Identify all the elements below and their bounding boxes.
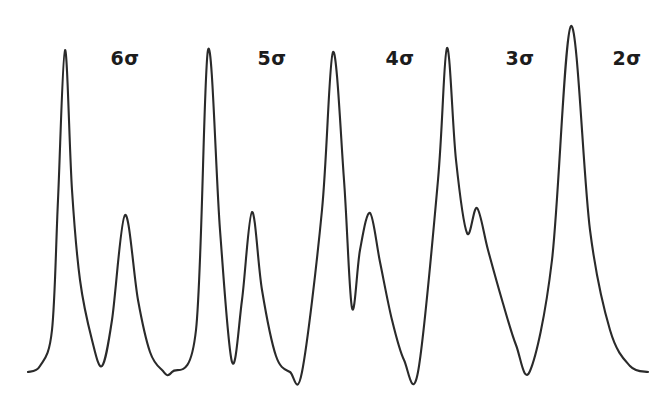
peak-label-3-sigma: 3σ bbox=[505, 47, 534, 69]
peak-label-text: 4σ bbox=[385, 47, 414, 69]
peak-label-5-sigma: 5σ bbox=[257, 47, 286, 69]
peak-label-text: 3σ bbox=[505, 47, 534, 69]
peak-label-6-sigma: 6σ bbox=[110, 47, 139, 69]
peak-label-text: 6σ bbox=[110, 47, 139, 69]
peak-label-4-sigma: 4σ bbox=[385, 47, 414, 69]
spectrum-figure: 6σ 5σ 4σ 3σ 2σ bbox=[0, 0, 665, 400]
peak-label-2-sigma: 2σ bbox=[612, 47, 641, 69]
spectrum-trace-plot bbox=[0, 0, 665, 400]
peak-label-text: 5σ bbox=[257, 47, 286, 69]
peak-label-text: 2σ bbox=[612, 47, 641, 69]
